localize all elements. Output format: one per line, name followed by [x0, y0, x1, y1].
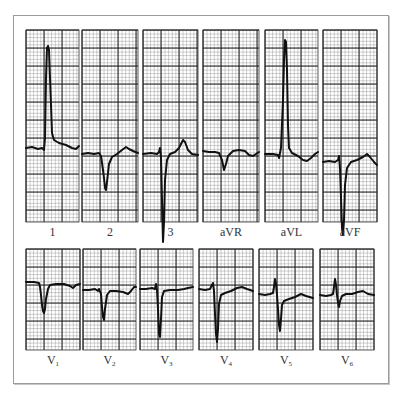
- lead-subscript: 1: [56, 360, 60, 368]
- ecg-panel-lead-2: [82, 30, 138, 222]
- lead-label-lead-1: 1: [25, 225, 81, 240]
- ecg-panel-lead-aVL: [265, 30, 318, 222]
- lead-label-lead-2: 2: [82, 225, 138, 240]
- lead-label-lead-aVL: aVL: [264, 225, 320, 240]
- lead-name: 1: [50, 225, 56, 239]
- grid-minor: [265, 30, 318, 222]
- lead-subscript: 3: [169, 360, 173, 368]
- ecg-panel-lead-aVF: [323, 30, 377, 235]
- lead-subscript: 2: [112, 360, 116, 368]
- lead-label-lead-V5: V5: [258, 353, 314, 368]
- lead-name: V: [160, 353, 169, 367]
- ecg-panel-lead-V5: [259, 249, 313, 350]
- ecg-panel-lead-3: [143, 30, 198, 242]
- ecg-figure: [0, 0, 397, 394]
- lead-panels: [26, 30, 377, 350]
- lead-name: V: [47, 353, 56, 367]
- lead-subscript: 4: [229, 360, 233, 368]
- grid-minor: [26, 249, 80, 350]
- grid-minor: [323, 30, 377, 222]
- lead-label-lead-aVR: aVR: [203, 225, 259, 240]
- lead-name: V: [341, 353, 350, 367]
- ecg-panel-lead-V3: [140, 249, 193, 350]
- grid-minor: [203, 30, 259, 222]
- lead-label-lead-3: 3: [143, 225, 199, 240]
- grid-minor: [143, 30, 198, 222]
- lead-name: V: [103, 353, 112, 367]
- lead-subscript: 6: [350, 360, 354, 368]
- ecg-panel-lead-V4: [199, 249, 253, 350]
- lead-name: aVR: [220, 225, 242, 239]
- lead-subscript: 5: [289, 360, 293, 368]
- ecg-panel-lead-V1: [26, 249, 80, 350]
- grid-minor: [83, 249, 136, 350]
- grid-minor: [82, 30, 138, 222]
- grid-minor: [140, 249, 193, 350]
- lead-label-lead-V2: V2: [82, 353, 138, 368]
- ecg-panel-lead-aVR: [203, 30, 259, 222]
- lead-label-lead-V3: V3: [139, 353, 195, 368]
- grid-minor: [199, 249, 253, 350]
- lead-name: 3: [168, 225, 174, 239]
- ecg-panel-lead-1: [26, 30, 79, 222]
- lead-name: V: [220, 353, 229, 367]
- ecg-panel-lead-V2: [83, 249, 136, 350]
- lead-label-lead-V1: V1: [25, 353, 81, 368]
- lead-name: aVL: [281, 225, 302, 239]
- lead-label-lead-V4: V4: [198, 353, 254, 368]
- lead-name: 2: [107, 225, 113, 239]
- grid-minor: [320, 249, 374, 350]
- lead-label-lead-V6: V6: [319, 353, 375, 368]
- lead-label-lead-aVF: aVF: [322, 225, 378, 240]
- lead-name: V: [280, 353, 289, 367]
- ecg-panel-lead-V6: [320, 249, 374, 350]
- lead-name: aVF: [340, 225, 361, 239]
